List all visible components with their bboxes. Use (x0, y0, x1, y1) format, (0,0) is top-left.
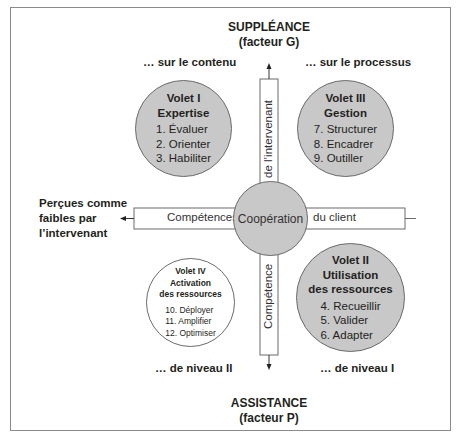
volet-circle-II: Volet II Utilisation des ressources 4. R… (296, 243, 405, 352)
bottom-axis-title: ASSISTANCE (facteur P) (219, 396, 319, 426)
bottom-axis-subtitle: (facteur P) (219, 411, 319, 426)
volet-title-line: Volet II (308, 253, 392, 268)
volet-title-line: Activation (159, 278, 221, 290)
volet-item: 2. Orienter (156, 137, 211, 152)
vertical-bar-bottom-label: Compétence (262, 264, 274, 329)
horizontal-bar-left-label: Compétences (167, 211, 238, 223)
up-arrow-icon (267, 63, 272, 69)
volet-circle-IV: Volet IV Activation des ressources 10. D… (146, 258, 235, 347)
volet-item: 3. Habiliter (156, 151, 211, 166)
volet-item: 1. Évaluer (156, 122, 211, 137)
volet-title-line: Gestion (324, 106, 367, 121)
left-axis-line: Perçues comme (39, 196, 127, 211)
volet-title-line: Volet III (324, 91, 367, 106)
volet-item: 8. Encadrer (314, 137, 377, 152)
volet-items: 4. Recueillir 5. Valider 6. Adapter (320, 299, 380, 343)
volet-item: 12. Optimiser (165, 328, 216, 340)
volet-item: 10. Déployer (165, 305, 216, 317)
volet-items: 10. Déployer 11. Amplifier 12. Optimiser (165, 305, 216, 340)
volet-title-line: Volet I (158, 91, 210, 106)
volet-item: 5. Valider (320, 313, 380, 328)
corner-label-bottom-left: … de niveau II (155, 362, 232, 374)
corner-label-top-right: … sur le processus (305, 56, 411, 68)
volet-circle-III: Volet III Gestion 7. Structurer 8. Encad… (297, 80, 394, 177)
top-axis-subtitle: (facteur G) (219, 35, 319, 50)
vertical-bar-top-label: de l’intervenant (262, 100, 274, 178)
top-axis-title-text: SUPPLÉANCE (219, 20, 319, 35)
volet-title: Volet IV Activation des ressources (159, 266, 221, 301)
volet-title: Volet I Expertise (158, 91, 210, 120)
volet-item: 4. Recueillir (320, 299, 380, 314)
volet-title: Volet II Utilisation des ressources (308, 253, 392, 297)
bottom-axis-title-text: ASSISTANCE (219, 396, 319, 411)
volet-item: 6. Adapter (320, 328, 380, 343)
down-arrow-icon (267, 364, 272, 370)
cooperation-label: Coopération (238, 212, 303, 226)
cooperation-circle: Coopération (233, 181, 308, 256)
volet-item: 9. Outiller (314, 151, 377, 166)
volet-item: 7. Structurer (314, 122, 377, 137)
volet-items: 7. Structurer 8. Encadrer 9. Outiller (314, 122, 377, 166)
volet-items: 1. Évaluer 2. Orienter 3. Habiliter (156, 122, 211, 166)
left-axis-label: Perçues comme faibles par l’intervenant (39, 196, 127, 241)
volet-title-line: Utilisation (308, 268, 392, 283)
volet-title-line: des ressources (159, 289, 221, 301)
volet-title-line: Volet IV (159, 266, 221, 278)
corner-label-bottom-right: … de niveau I (320, 362, 394, 374)
left-axis-line: l’intervenant (39, 226, 127, 241)
volet-circle-I: Volet I Expertise 1. Évaluer 2. Orienter… (135, 80, 232, 177)
horizontal-bar-right-label: du client (313, 211, 356, 223)
corner-label-top-left: … sur le contenu (143, 56, 236, 68)
volet-title: Volet III Gestion (324, 91, 367, 120)
volet-title-line: Expertise (158, 106, 210, 121)
top-axis-title: SUPPLÉANCE (facteur G) (219, 20, 319, 50)
volet-item: 11. Amplifier (165, 316, 216, 328)
volet-title-line: des ressources (308, 282, 392, 297)
left-axis-line: faibles par (39, 211, 127, 226)
